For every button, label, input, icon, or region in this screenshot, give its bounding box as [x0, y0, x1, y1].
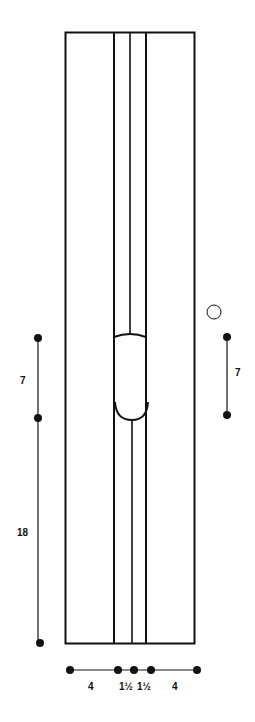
quilt-strip-diagram: 7 18 7 4 1½ 1½ 4 — [0, 0, 255, 722]
bottom-label-4-left: 4 — [88, 681, 94, 692]
left-label-7: 7 — [20, 375, 26, 386]
bottom-label-1half-b: 1½ — [137, 681, 151, 692]
dimension-dot — [193, 666, 201, 674]
capsule-shape — [114, 334, 148, 420]
left-dimension: 7 18 — [17, 334, 44, 647]
dimension-dot — [34, 414, 42, 422]
right-dimension: 7 — [207, 305, 241, 419]
right-label-7: 7 — [235, 367, 241, 378]
dimension-dot — [223, 333, 231, 341]
bottom-label-1half-a: 1½ — [119, 681, 133, 692]
dimension-dot — [66, 666, 74, 674]
dimension-dot — [36, 639, 44, 647]
open-circle-icon — [207, 305, 221, 319]
dimension-dot — [114, 666, 122, 674]
bottom-label-4-right: 4 — [172, 681, 178, 692]
bottom-dimension: 4 1½ 1½ 4 — [66, 666, 201, 692]
dimension-dot — [223, 411, 231, 419]
dimension-dot — [130, 666, 138, 674]
dimension-dot — [34, 334, 42, 342]
dimension-dot — [147, 666, 155, 674]
left-label-18: 18 — [17, 527, 29, 538]
